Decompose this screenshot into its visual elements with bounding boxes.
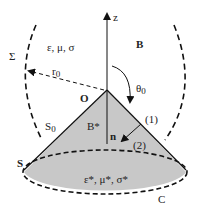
inner-medium-label: ε*, μ*, σ*	[84, 173, 128, 185]
normal-label: n	[110, 130, 116, 142]
b-outside-label: B	[136, 38, 144, 50]
s0-label: S0	[45, 120, 56, 134]
outer-medium-label: ε, μ, σ	[47, 41, 75, 53]
cone-diagram: Σ ε, μ, σ r0 O z B θ0 S0 B* n (1) (2) ε*…	[0, 0, 200, 210]
s-label: S	[17, 157, 23, 169]
sigma-label: Σ	[9, 50, 15, 62]
theta0-label: θ0	[136, 82, 146, 96]
sigma-arc-right	[165, 25, 185, 140]
z-axis-label: z	[113, 11, 118, 23]
curve-c-label: C	[158, 193, 165, 205]
b-inside-label: B*	[87, 120, 100, 132]
side1-label: (1)	[145, 113, 158, 126]
sigma-arc-left	[25, 25, 42, 140]
origin-label: O	[80, 92, 89, 104]
r0-arrow	[29, 71, 104, 90]
theta-arc	[112, 66, 130, 102]
r0-label: r0	[52, 65, 61, 79]
side2-label: (2)	[133, 139, 146, 152]
